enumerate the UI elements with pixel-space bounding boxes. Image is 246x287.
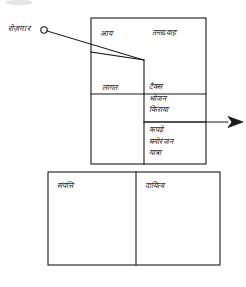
label-liabilities: दायित्व [145,180,164,190]
expense-group-primary: टैक्स भोजन किराया [149,81,169,114]
diagram-canvas: रोज़गार आय तनख़्वाह लागत टैक्स भोजन किरा… [0,0,246,287]
label-assets: संपत्ति [57,180,74,190]
label-rent: किराया [149,104,169,114]
expense-outflow-arrow-head [228,117,243,128]
expense-group-secondary: कपड़े मनोरंजन यात्रा [149,124,173,157]
label-income: आय [100,28,112,38]
rozgar-connector-node [41,27,47,33]
label-clothes: कपड़े [149,124,173,134]
label-entertainment: मनोरंजन [149,136,173,146]
diagram-drawing [0,0,246,287]
label-cost: लागत [102,82,118,92]
label-food: भोजन [149,93,169,103]
label-rozgar: रोज़गार [8,22,30,33]
label-tax: टैक्स [149,81,169,91]
label-travel: यात्रा [149,147,173,157]
rozgar-connector-line [47,31,144,60]
label-salary: तनख़्वाह [152,27,176,37]
